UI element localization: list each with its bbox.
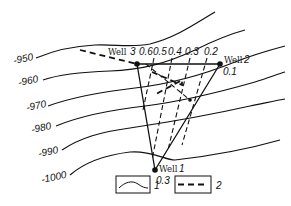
- contour-label-950: -950: [12, 51, 34, 66]
- isoline-connector: [146, 64, 190, 100]
- well-3-point: [134, 61, 140, 67]
- contour-label-970: -970: [25, 98, 47, 113]
- well-2-label: Well: [224, 55, 243, 65]
- isoline-label-0.2: 0.2: [204, 46, 218, 57]
- isoline-label-0.3: 0.3: [185, 46, 199, 57]
- legend-label-1: 1: [154, 180, 160, 191]
- well-3-value: 0.6: [139, 46, 153, 57]
- isoline-label-0.4: 0.4: [168, 46, 182, 57]
- well-2-point: [217, 61, 223, 67]
- well-1-point: [152, 167, 158, 173]
- well-3-label: Well: [108, 47, 127, 57]
- well-1-label: Well: [159, 164, 178, 174]
- contour-label-960: -960: [17, 73, 39, 88]
- solid-curve-icon: [119, 182, 148, 188]
- contour-label-1000: -1000: [40, 169, 68, 185]
- isolines: [143, 58, 207, 160]
- intersection-point: [188, 98, 192, 102]
- isoline-label-0.5: 0.5: [153, 46, 167, 57]
- isoline-0.2: [182, 58, 207, 145]
- contour-label-980: -980: [30, 120, 52, 135]
- well-2-number: 2: [243, 54, 250, 65]
- contour-label-990: -990: [37, 144, 59, 159]
- legend-box-1: [116, 176, 150, 193]
- well-3-number: 3: [130, 46, 136, 57]
- contour-map: -950 -960 -970 -980 -990 -1000 Well 3 0.…: [0, 0, 291, 206]
- well-1-number: 1: [179, 163, 185, 174]
- contour-lines: [36, 12, 285, 175]
- well-2-value: 0.1: [223, 66, 237, 77]
- contour-line-990: [62, 99, 285, 150]
- legend-label-2: 2: [215, 180, 222, 191]
- contour-labels: -950 -960 -970 -980 -990 -1000: [12, 51, 68, 185]
- isoline-0.3: [168, 58, 190, 150]
